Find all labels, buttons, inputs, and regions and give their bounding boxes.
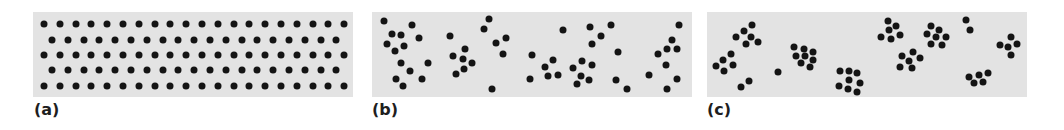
dot-panel-a	[222, 37, 229, 44]
dot-panel-a	[72, 21, 79, 28]
dot-panel-a	[159, 37, 166, 44]
dot-panel-a	[270, 67, 277, 74]
dot-panel-b	[613, 77, 620, 84]
dot-panel-a	[56, 52, 63, 59]
dot-panel-a	[246, 52, 253, 59]
dot-panel-b	[655, 51, 662, 58]
dot-panel-c	[857, 80, 864, 87]
dot-panel-b	[545, 73, 552, 80]
dot-panel-c	[837, 68, 844, 75]
dot-panel-a	[262, 52, 269, 59]
dot-panel-b	[589, 41, 596, 48]
dot-panel-a	[230, 52, 237, 59]
dot-panel-b	[664, 46, 671, 53]
dot-panel-c	[976, 72, 983, 79]
dot-panel-b	[462, 46, 469, 53]
dot-panel-c	[885, 18, 892, 25]
dot-panel-a	[207, 37, 214, 44]
dot-panel-a	[80, 37, 87, 44]
dot-panel-b	[555, 72, 562, 79]
dot-panel-a	[246, 21, 253, 28]
dot-panel-a	[309, 21, 316, 28]
dot-panel-c	[910, 49, 917, 56]
dot-panel-b	[527, 76, 534, 83]
dot-panel-a	[262, 83, 269, 90]
dot-panel-a	[191, 37, 198, 44]
dot-panel-a	[191, 67, 198, 74]
dot-panel-b	[489, 86, 496, 93]
dot-panel-a	[151, 21, 158, 28]
dot-panel-b	[560, 27, 567, 34]
dot-panel-c	[897, 32, 904, 39]
dot-panel-b	[570, 65, 577, 72]
dot-panel-a	[56, 21, 63, 28]
dot-panel-a	[41, 83, 48, 90]
dot-panel-c	[846, 68, 853, 75]
dot-panel-b	[624, 86, 631, 93]
dot-panel-a	[207, 67, 214, 74]
dot-panel-a	[278, 83, 285, 90]
dot-panel-a	[104, 21, 111, 28]
dot-panel-a	[230, 21, 237, 28]
dot-panel-a	[120, 52, 127, 59]
dot-panel-b	[500, 51, 507, 58]
dot-panel-b	[447, 33, 454, 40]
dot-panel-a	[301, 37, 308, 44]
dot-panel-c	[791, 44, 798, 51]
dot-panel-b	[664, 86, 671, 93]
dot-panel-c	[748, 34, 755, 41]
dot-panel-c	[802, 53, 809, 60]
dot-panel-a	[278, 21, 285, 28]
dot-panel-c	[928, 23, 935, 30]
dot-panel-a	[325, 83, 332, 90]
dot-panel-a	[214, 21, 221, 28]
dot-panel-a	[199, 83, 206, 90]
dot-panel-a	[41, 21, 48, 28]
dot-panel-a	[104, 52, 111, 59]
dot-panel-a	[135, 83, 142, 90]
dot-panel-b	[646, 72, 653, 79]
dot-panel-c	[749, 22, 756, 29]
dot-panel-a	[143, 37, 150, 44]
dot-panel-c	[801, 46, 808, 53]
dot-panel-a	[199, 52, 206, 59]
dot-panel-a	[64, 67, 71, 74]
dot-panel-b	[460, 56, 467, 63]
dot-panel-c	[933, 34, 940, 41]
dot-panel-c	[963, 17, 970, 24]
dot-panel-a	[175, 67, 182, 74]
dot-panel-a	[56, 83, 63, 90]
dot-panel-a	[301, 67, 308, 74]
dot-panel-a	[293, 83, 300, 90]
dot-panel-c	[971, 80, 978, 87]
panel-a-uniform	[33, 12, 353, 97]
dot-panel-b	[493, 40, 500, 47]
dot-panel-c	[980, 79, 987, 86]
dot-panel-a	[309, 52, 316, 59]
dot-panel-b	[674, 46, 681, 53]
dot-panel-a	[120, 83, 127, 90]
dot-panel-a	[104, 83, 111, 90]
dot-panel-a	[286, 67, 293, 74]
dot-panel-a	[309, 83, 316, 90]
dot-panel-a	[72, 83, 79, 90]
dot-panel-c	[1008, 52, 1015, 59]
dot-panel-a	[88, 21, 95, 28]
dot-panel-b	[578, 73, 585, 80]
dot-panel-c	[720, 57, 727, 64]
dot-panel-a	[167, 21, 174, 28]
dot-panel-b	[450, 53, 457, 60]
dot-panel-c	[846, 77, 853, 84]
dot-panel-c	[1005, 44, 1012, 51]
dot-panel-c	[713, 63, 720, 70]
dot-panel-c	[854, 89, 861, 96]
dot-panel-a	[159, 67, 166, 74]
dot-panel-c	[1008, 34, 1015, 41]
dot-panel-a	[96, 37, 103, 44]
dot-panel-c	[721, 68, 728, 75]
dot-panel-a	[167, 83, 174, 90]
dot-panel-c	[810, 49, 817, 56]
dot-panel-c	[793, 53, 800, 60]
dot-panel-a	[325, 52, 332, 59]
dot-panel-c	[906, 58, 913, 65]
